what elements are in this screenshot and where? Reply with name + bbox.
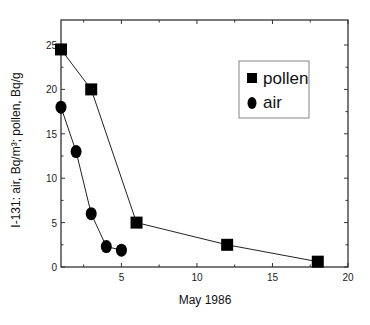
legend-circle-icon (248, 97, 257, 109)
x-axis-title: May 1986 (179, 293, 232, 307)
legend: pollenair (239, 61, 309, 118)
y-tick-label: 15 (46, 129, 58, 140)
circle-marker (86, 207, 97, 220)
y-tick-label: 0 (51, 262, 57, 273)
x-tick-label: 5 (119, 272, 125, 283)
square-marker (55, 43, 67, 55)
circle-marker (56, 101, 67, 114)
square-marker (312, 256, 324, 268)
plot-frame (61, 20, 348, 267)
air-line (61, 107, 121, 250)
circle-marker (101, 240, 112, 253)
y-tick-label: 20 (46, 84, 58, 95)
y-tick-label: 10 (46, 173, 58, 184)
y-axis-title: I-131: air, Bq/m³; pollen, Bq/g (9, 72, 23, 227)
legend-square-icon (247, 73, 257, 83)
series-air (56, 101, 127, 257)
legend-label-pollen: pollen (263, 69, 308, 88)
square-marker (85, 83, 97, 95)
circle-marker (116, 244, 127, 257)
chart-canvas: 51015200510152025 pollenair May 1986 I-1… (0, 0, 370, 325)
square-marker (131, 217, 143, 229)
plot-border (61, 20, 348, 267)
axis-ticks: 51015200510152025 (46, 20, 354, 283)
circle-marker (71, 145, 82, 158)
x-tick-label: 20 (342, 272, 354, 283)
y-tick-label: 5 (51, 218, 57, 229)
x-tick-label: 15 (267, 272, 279, 283)
x-tick-label: 10 (191, 272, 203, 283)
square-marker (221, 239, 233, 251)
legend-label-air: air (263, 93, 282, 112)
